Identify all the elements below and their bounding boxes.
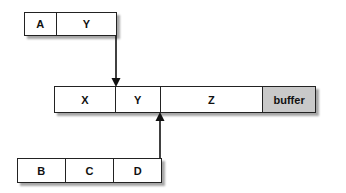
arrows-layer [0, 0, 346, 193]
down-arrow-icon [112, 36, 121, 87]
up-arrow-icon [156, 112, 165, 158]
